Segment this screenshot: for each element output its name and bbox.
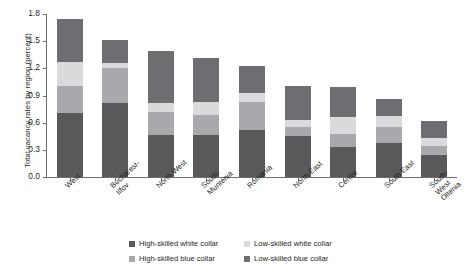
bar-segment[interactable] [193,115,219,136]
bar-group[interactable] [57,19,83,177]
bar-segment[interactable] [330,134,356,147]
legend-item[interactable]: Low-skilled white collar [244,239,359,248]
bar-segment[interactable] [57,113,83,177]
bar-segment[interactable] [57,62,83,86]
y-tick-mark [43,177,47,178]
bar-segment[interactable] [285,120,311,127]
bar-segment[interactable] [193,102,219,115]
bar-segment[interactable] [421,121,447,138]
legend-label: Low-skilled blue collar [254,254,328,263]
bar-segment[interactable] [285,86,311,120]
bar-segment[interactable] [421,138,447,146]
bar-segment[interactable] [57,86,83,112]
bar-group[interactable] [148,51,174,177]
bar-segment[interactable] [376,99,402,116]
bar-group[interactable] [193,58,219,177]
y-tick-label: 1.2 [13,62,40,72]
bar-segment[interactable] [376,127,402,142]
legend-label: High-skilled white collar [139,239,218,248]
legend-swatch-icon [244,241,250,247]
y-tick-label: 0.9 [13,90,40,100]
bar-group[interactable] [330,87,356,177]
bar-segment[interactable] [193,58,219,102]
bar-segment[interactable] [376,116,402,127]
bar-segment[interactable] [239,102,265,130]
bar-segment[interactable] [330,117,356,134]
bar-series-container [47,14,457,177]
y-tick-label: 0.0 [13,171,40,181]
bar-segment[interactable] [57,19,83,62]
bar-segment[interactable] [285,127,311,136]
legend-swatch-icon [129,256,135,262]
legend-label: Low-skilled white collar [254,239,332,248]
bar-segment[interactable] [148,112,174,136]
bar-segment[interactable] [102,68,128,102]
bar-segment[interactable] [330,87,356,117]
stacked-bar-chart: Total vacancy rates by region (percent) … [0,0,465,277]
bar-group[interactable] [376,99,402,177]
legend-label: High-skilled blue collar [139,254,215,263]
y-tick-label: 0.6 [13,117,40,127]
legend-item[interactable]: High-skilled blue collar [129,254,244,263]
chart-title [150,0,330,7]
legend-item[interactable]: Low-skilled blue collar [244,254,359,263]
bar-segment[interactable] [239,93,265,102]
legend-swatch-icon [244,256,250,262]
bar-group[interactable] [285,86,311,177]
y-tick-label: 0.3 [13,144,40,154]
bar-segment[interactable] [102,40,128,63]
legend-swatch-icon [129,241,135,247]
y-tick-label: 1.5 [13,35,40,45]
plot-area: 0.00.30.60.91.21.51.8 [47,14,457,177]
bar-segment[interactable] [148,51,174,103]
y-tick-label: 1.8 [13,8,40,18]
bar-segment[interactable] [102,103,128,177]
bar-segment[interactable] [421,146,447,155]
bar-segment[interactable] [239,66,265,93]
bar-group[interactable] [102,40,128,177]
chart-legend: High-skilled white collarLow-skilled whi… [129,236,359,266]
bar-group[interactable] [239,66,265,177]
bar-segment[interactable] [148,103,174,112]
legend-item[interactable]: High-skilled white collar [129,239,244,248]
